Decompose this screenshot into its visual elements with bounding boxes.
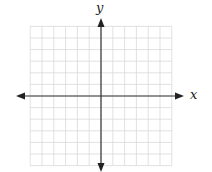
x-axis: [16, 93, 184, 100]
y-axis: [98, 18, 105, 172]
y-axis-label: y: [95, 0, 104, 15]
x-axis-left-arrow-icon: [16, 93, 25, 100]
x-axis-label: x: [190, 87, 198, 102]
coordinate-plane: y x: [0, 0, 212, 172]
y-axis-up-arrow-icon: [98, 18, 105, 27]
x-axis-right-arrow-icon: [175, 93, 184, 100]
y-axis-down-arrow-icon: [98, 163, 105, 172]
